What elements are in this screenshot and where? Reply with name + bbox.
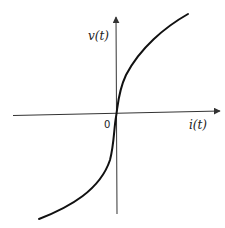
vi-characteristic-diagram: v(t) i(t) 0 (0, 0, 225, 228)
x-axis-label: i(t) (189, 118, 207, 132)
origin-label: 0 (104, 119, 110, 130)
vi-curve (39, 14, 188, 219)
y-axis-label: v(t) (88, 29, 109, 43)
